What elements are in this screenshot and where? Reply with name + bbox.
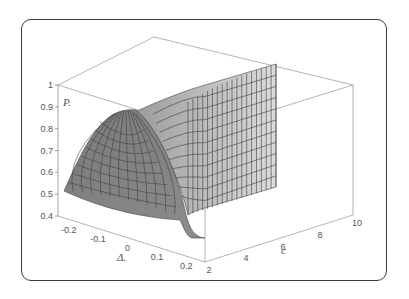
z-tick-label: 0.5 (40, 189, 53, 199)
c-tick-label: 4 (243, 253, 248, 263)
delta-axis: -0.2-0.100.10.2 Δ. (61, 225, 193, 272)
z-tick-label: 0.6 (40, 167, 53, 177)
delta-tick-label: -0.1 (90, 234, 106, 244)
c-axis-label: c (281, 244, 286, 256)
z-tick-label: 0.7 (40, 146, 53, 156)
delta-tick-label: 0.2 (180, 261, 193, 271)
c-tick-label: 8 (317, 230, 322, 240)
z-tick-label: 0.8 (40, 124, 53, 134)
c-axis: 246810 c (206, 218, 362, 275)
c-tick-label: 10 (352, 218, 362, 228)
z-tick-label: 1 (48, 80, 53, 90)
z-axis: 0.40.50.60.70.80.91 P. (40, 80, 71, 221)
z-tick-label: 0.4 (40, 211, 53, 221)
z-axis-label: P. (62, 96, 71, 108)
delta-tick-label: 0.1 (151, 252, 164, 262)
delta-axis-label: Δ. (116, 251, 126, 263)
z-tick-label: 0.9 (40, 102, 53, 112)
delta-tick-label: -0.2 (61, 225, 77, 235)
surface-plot: 0.40.50.60.70.80.91 P. -0.2-0.100.10.2 Δ… (0, 0, 409, 299)
c-tick-label: 2 (206, 265, 211, 275)
